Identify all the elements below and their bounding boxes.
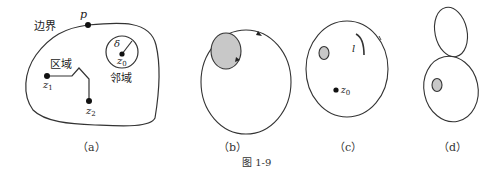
panel-d-caption: （d） [438,142,467,153]
figure-caption: 图 1-9 [242,158,271,168]
c-z0-sub: 0 [346,89,350,97]
panel-c-caption: （c） [334,142,362,153]
hole-ellipse [211,33,241,69]
delta-label: δ [114,39,120,49]
boundary-label: 边界 [34,21,56,32]
upper-ellipse [430,4,472,60]
z1-sub: 1 [48,84,52,92]
neighborhood-label: 邻域 [110,73,132,84]
point-p-dot [85,22,91,28]
outer-ellipse [306,21,388,117]
z0-label: z0 [117,56,127,68]
panel-b-caption: （b） [218,142,247,153]
figure-canvas [0,0,503,174]
point-z2-dot [86,98,92,104]
panel-c-diagram [306,21,388,117]
panel-a-caption: （a） [77,142,106,153]
panel-d-diagram [418,4,485,127]
panel-b-diagram [201,30,291,134]
region-label: 区域 [50,59,72,70]
z0-sub: 0 [122,60,126,68]
point-z0-dot [333,87,338,92]
hole-ellipse [432,79,442,92]
point-p-label: p [80,9,87,20]
z1-label: z1 [43,80,53,92]
c-z0-label: z0 [341,86,350,97]
curve-l-path [356,34,364,55]
lower-ellipse [418,51,485,127]
z2-label: z2 [86,106,96,118]
curve-l-label: l [352,44,355,54]
region-path-polyline [47,68,89,101]
hole-small-ellipse [319,47,329,60]
z2-sub: 2 [91,110,95,118]
